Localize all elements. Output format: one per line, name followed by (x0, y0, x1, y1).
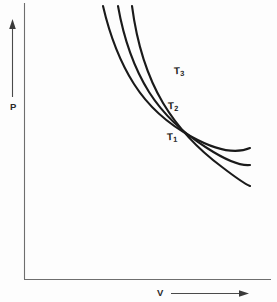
isotherm-curve-t1 (132, 6, 250, 186)
curve-label-t1: T1 (167, 132, 178, 142)
x-axis-label: V (157, 288, 163, 298)
curve-label-t1-subscript: 1 (173, 135, 177, 144)
isotherm-curve-t2 (118, 6, 250, 165)
curve-label-t3: T3 (174, 66, 185, 76)
y-axis-label: P (10, 102, 16, 112)
right-arrow-icon (239, 290, 249, 297)
plot-canvas (0, 0, 277, 302)
curve-label-t2: T2 (168, 101, 179, 111)
curve-label-t3-subscript: 3 (180, 69, 184, 78)
isotherm-curve-t3 (103, 6, 250, 151)
up-arrow-icon (9, 19, 16, 29)
curve-label-t2-subscript: 2 (174, 104, 178, 113)
pv-isotherm-figure: T3 T2 T1 P V (0, 0, 277, 302)
